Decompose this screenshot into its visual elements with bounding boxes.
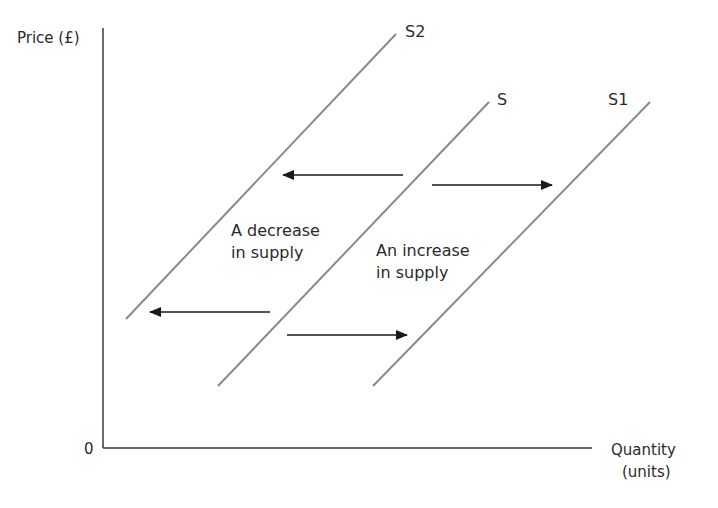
- supply-shift-diagram: [0, 0, 718, 508]
- x-axis-label-line1: Quantity: [611, 440, 676, 460]
- curve-label-s: S: [497, 90, 507, 110]
- y-axis-label: Price (£): [17, 28, 80, 48]
- increase-in-supply-annotation: An increase in supply: [376, 240, 470, 284]
- curve-label-s2: S2: [405, 22, 425, 42]
- origin-label: 0: [84, 439, 94, 459]
- decrease-in-supply-annotation: A decrease in supply: [231, 220, 320, 264]
- supply-curve-s2: [126, 34, 396, 319]
- x-axis-label-line2: (units): [622, 462, 671, 482]
- curve-label-s1: S1: [608, 90, 628, 110]
